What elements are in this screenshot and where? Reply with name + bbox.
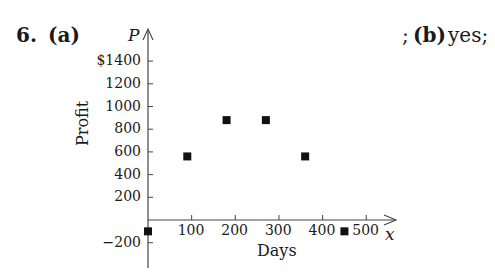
y-axis-variable: P (128, 25, 139, 45)
data-point (262, 116, 270, 124)
x-tick-label: 500 (352, 222, 379, 238)
y-tick-label: $1400 (96, 52, 141, 68)
y-tick-label: 600 (114, 143, 141, 159)
x-tick-label: 100 (178, 222, 205, 238)
y-tick-label: 800 (114, 120, 141, 136)
data-point (183, 152, 191, 160)
y-ticks (148, 61, 153, 243)
data-point (301, 152, 309, 160)
x-tick-label: 300 (265, 222, 292, 238)
y-tick-label: 400 (114, 166, 141, 182)
y-axis-title: Profit (73, 101, 92, 146)
x-tick-label: 200 (221, 222, 248, 238)
x-axis-variable: x (385, 224, 395, 244)
y-tick-label: 200 (114, 188, 141, 204)
data-point (144, 227, 152, 235)
data-point (340, 227, 348, 235)
x-axis-title: Days (257, 241, 297, 260)
y-tick-label: 1200 (105, 75, 141, 91)
x-tick-label: 400 (309, 222, 336, 238)
data-points (144, 116, 348, 235)
x-ticks (192, 215, 367, 220)
y-tick-label: 1000 (105, 98, 141, 114)
data-point (223, 116, 231, 124)
y-tick-label: −200 (103, 234, 141, 250)
